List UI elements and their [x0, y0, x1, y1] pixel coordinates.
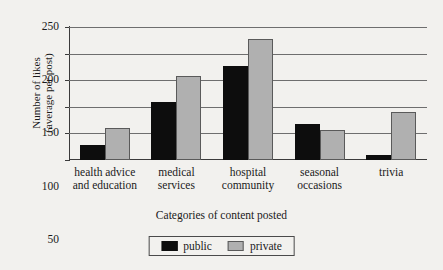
bar-public: [366, 155, 391, 160]
legend-label-public: public: [183, 240, 212, 252]
bar-group: [284, 27, 356, 160]
bar-private: [176, 76, 201, 160]
legend-swatch-public-icon: [161, 241, 177, 251]
bar-private: [320, 130, 345, 160]
y-axis-title-line2: (average per post): [42, 18, 54, 168]
bar-groups: [69, 27, 427, 160]
x-axis-tick-label: seasonaloccasions: [284, 166, 356, 192]
x-axis-title: Categories of content posted: [0, 209, 443, 221]
y-axis-tick-label: 200: [42, 74, 59, 86]
legend-swatch-private-icon: [228, 241, 244, 251]
y-axis-tick-label: 150: [42, 128, 59, 140]
bar-public: [151, 102, 176, 160]
x-axis-tick-labels: health adviceand educationmedicalservice…: [69, 166, 427, 192]
y-axis-title-line1: Number of likes: [30, 57, 42, 128]
x-axis-tick-label: health adviceand education: [69, 166, 141, 192]
bar-group: [355, 27, 427, 160]
bar-group: [212, 27, 284, 160]
y-axis-tick-label: 250: [42, 21, 59, 33]
x-axis-tick-label: medicalservices: [141, 166, 213, 192]
bar-private: [391, 112, 416, 160]
chart-legend: public private: [148, 236, 295, 256]
bar-public: [223, 66, 248, 160]
bar-public: [80, 145, 105, 160]
x-axis-tick-label: hospitalcommunity: [212, 166, 284, 192]
y-axis-tick-label: 50: [48, 234, 60, 246]
plot-area: 050100150200250: [69, 27, 427, 160]
legend-item-public: public: [161, 240, 212, 252]
x-axis-tick-label: trivia: [355, 166, 427, 192]
bar-private: [105, 128, 130, 160]
y-axis-tick-label: 100: [42, 181, 59, 193]
y-axis-tick: 0: [65, 160, 69, 161]
bar-group: [69, 27, 141, 160]
bar-chart: Number of likes (average per post) 05010…: [0, 0, 443, 270]
legend-item-private: private: [228, 240, 282, 252]
y-axis-title: Number of likes (average per post): [8, 18, 30, 168]
bar-private: [248, 39, 273, 160]
legend-label-private: private: [250, 240, 282, 252]
bar-group: [141, 27, 213, 160]
bar-public: [295, 124, 320, 160]
